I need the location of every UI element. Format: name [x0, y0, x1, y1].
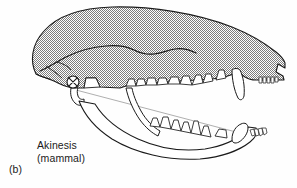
lower-incisors	[250, 128, 267, 136]
caption-line-1: Akinesis	[37, 139, 77, 151]
cranium	[32, 7, 285, 88]
lower-premolar-3	[201, 126, 211, 137]
upper-incisor-2	[263, 77, 266, 83]
upper-incisor-4	[271, 77, 274, 83]
lower-molar-1	[150, 118, 160, 127]
jaw-joint-akinesis-marker	[67, 76, 79, 88]
upper-incisor-1	[259, 77, 262, 83]
panel-letter-label: (b)	[9, 163, 22, 176]
upper-molar-3	[146, 78, 157, 85]
caption-line-2: (mammal)	[37, 152, 85, 165]
upper-incisor-3	[267, 77, 270, 83]
upper-incisors	[259, 77, 278, 83]
lower-premolar-1	[181, 122, 191, 133]
mandible-ramus	[126, 88, 160, 136]
upper-molar-2	[136, 79, 146, 86]
cranium-outline	[32, 7, 285, 88]
upper-incisor-5	[275, 77, 278, 82]
lower-molar-3	[171, 120, 181, 131]
lower-molar-2	[160, 117, 171, 129]
akinesis-caption: Akinesis (mammal)	[37, 139, 85, 164]
lower-tooth-row	[150, 117, 227, 138]
upper-premolar-1	[157, 78, 168, 85]
lower-premolar-2	[191, 121, 201, 135]
lower-premolar-4	[215, 129, 227, 138]
figure-panel: Akinesis (mammal) (b)	[0, 0, 297, 188]
